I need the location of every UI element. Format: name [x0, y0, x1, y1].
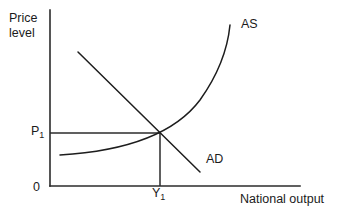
diagram-canvas [0, 0, 340, 216]
y-axis-label: Pricelevel [9, 11, 37, 41]
y-axis-label-line2: level [9, 26, 37, 41]
y-axis-label-line1: Price [9, 11, 37, 25]
aggregate-demand-curve [78, 52, 200, 172]
aggregate-supply-curve [60, 25, 230, 155]
aggregate-supply-label: AS [241, 17, 258, 32]
output-marker-label: Y1 [152, 186, 165, 201]
output-subscript: 1 [160, 192, 165, 202]
x-axis-label: National output [240, 192, 324, 207]
price-level-marker-label: P1 [31, 124, 44, 139]
aggregate-demand-label: AD [206, 152, 223, 167]
as-ad-diagram: Pricelevel 0 P1 Y1 AS AD National output [0, 0, 340, 216]
origin-label: 0 [33, 180, 40, 195]
price-subscript: 1 [39, 130, 44, 140]
